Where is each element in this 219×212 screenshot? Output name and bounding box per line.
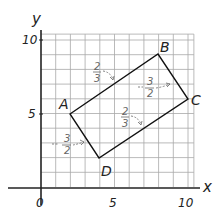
slope-annotation-ad: 3 2 [52, 133, 84, 156]
arrow-icon [103, 71, 113, 79]
vertex-label-d: D [101, 163, 112, 179]
svg-text:3: 3 [122, 118, 128, 129]
svg-text:3: 3 [64, 133, 70, 144]
y-axis-label: y [31, 10, 42, 28]
y-tick-10: 10 [22, 33, 38, 47]
svg-text:2: 2 [122, 106, 128, 117]
coordinate-plane: x y 0 5 10 5 10 A B C D 2 3 3 2 2 3 3 [0, 0, 219, 212]
svg-text:2: 2 [94, 61, 100, 72]
svg-text:3: 3 [147, 76, 153, 87]
x-axis-label: x [202, 178, 212, 196]
y-tick-5: 5 [28, 107, 36, 121]
x-tick-5: 5 [109, 196, 117, 210]
svg-text:2: 2 [147, 88, 153, 99]
x-tick-0: 0 [36, 196, 44, 210]
vertex-label-c: C [191, 92, 201, 108]
arrow-icon [131, 116, 141, 124]
slope-annotation-ab: 2 3 [93, 61, 114, 84]
vertex-label-b: B [160, 39, 170, 55]
x-tick-10: 10 [178, 196, 194, 210]
slope-annotation-bc: 3 2 [138, 76, 170, 99]
slope-annotation-dc: 2 3 [121, 106, 142, 129]
svg-text:2: 2 [64, 145, 70, 156]
svg-text:3: 3 [94, 73, 100, 84]
vertex-label-a: A [58, 96, 69, 112]
